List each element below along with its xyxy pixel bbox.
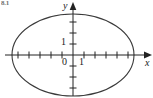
ellipse-figure: 8.1 [0, 0, 153, 98]
arrow-up-icon [70, 2, 77, 10]
y-axis-label: y [63, 1, 67, 11]
coordinate-plot [0, 0, 153, 98]
origin-label: 0 [62, 57, 67, 67]
x-tick-label-one: 1 [79, 57, 84, 67]
y-tick-label-one: 1 [61, 37, 66, 47]
x-axis-label: x [145, 58, 149, 68]
